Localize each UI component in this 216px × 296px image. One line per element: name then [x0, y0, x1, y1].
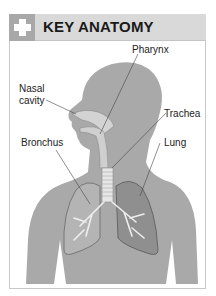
respiratory-diagram [0, 0, 216, 296]
label-nasal-cavity-line1: Nasal [19, 83, 45, 94]
label-nasal-cavity-line2: cavity [19, 95, 45, 106]
label-trachea: Trachea [164, 108, 200, 119]
label-lung: Lung [164, 137, 186, 148]
trachea [102, 168, 113, 202]
label-pharynx: Pharynx [132, 44, 169, 55]
label-bronchus: Bronchus [21, 137, 63, 148]
